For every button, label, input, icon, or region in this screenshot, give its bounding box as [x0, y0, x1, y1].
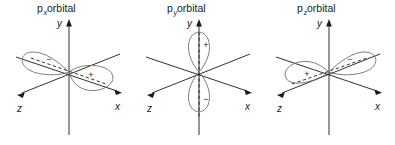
py-title-p: p: [167, 2, 173, 14]
py-z-axis-label: z: [146, 103, 152, 114]
panel-pz-orbital: p z orbital y x z + −: [262, 0, 393, 145]
px-x-axis-arrowhead: [114, 90, 122, 96]
py-x-axis-line: [146, 57, 247, 91]
panel-px-orbital: p x orbital y x z + −: [2, 0, 133, 145]
py-lobe-positive-sign: +: [203, 40, 208, 50]
py-orbital-diagram: p y orbital y x z + −: [132, 0, 263, 145]
px-orbital-diagram: p x orbital y x z + −: [2, 0, 133, 145]
pz-lobe-negative-sign: −: [347, 54, 352, 64]
pz-orbital-diagram: p z orbital y x z + −: [262, 0, 393, 145]
px-x-axis-label: x: [114, 101, 121, 112]
px-z-axis-arrowhead: [17, 93, 25, 99]
panel-py-orbital: p y orbital y x z + −: [132, 0, 263, 145]
py-title-rest: orbital: [177, 2, 206, 14]
px-title-rest: orbital: [47, 2, 76, 14]
pz-y-axis-label: y: [316, 18, 323, 29]
py-x-axis-arrowhead: [244, 90, 252, 96]
pz-title-p: p: [297, 2, 303, 14]
pz-lobe-positive-sign: +: [304, 69, 309, 79]
py-z-axis-arrowhead: [147, 93, 155, 99]
pz-y-axis-arrowhead: [326, 19, 332, 27]
px-z-axis-label: z: [16, 103, 22, 114]
py-y-axis-arrowhead: [196, 19, 202, 27]
px-lobe-negative-sign: −: [46, 54, 51, 64]
px-x-axis-line: [16, 57, 117, 91]
px-y-axis-label: y: [56, 18, 63, 29]
pz-title-rest: orbital: [307, 2, 336, 14]
pz-x-axis-arrowhead: [374, 90, 382, 96]
py-x-axis-label: x: [244, 101, 251, 112]
pz-z-axis-label: z: [276, 103, 282, 114]
pz-z-axis-arrowhead: [277, 93, 285, 99]
p-orbital-figure: p x orbital y x z + −: [0, 0, 395, 145]
px-title-p: p: [37, 2, 43, 14]
pz-x-axis-label: x: [374, 101, 381, 112]
py-lobe-negative-sign: −: [203, 94, 208, 104]
px-lobe-positive-sign: +: [88, 70, 93, 80]
py-y-axis-label: y: [186, 18, 193, 29]
px-y-axis-arrowhead: [66, 19, 72, 27]
